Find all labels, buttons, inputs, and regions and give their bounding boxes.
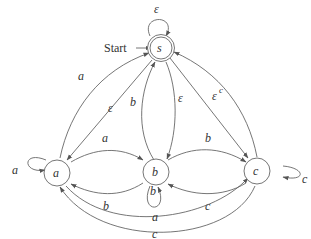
loop-c	[283, 166, 300, 178]
label-c-a: c	[152, 227, 158, 239]
edge-c-b	[168, 183, 246, 194]
state-c: c	[244, 158, 270, 184]
state-a: a	[44, 160, 70, 186]
label-s-b: ε	[178, 91, 183, 105]
label-c-b: c	[205, 199, 211, 213]
state-s: s	[148, 35, 175, 62]
label-s-c: ε	[212, 89, 217, 103]
state-s-label: s	[157, 41, 162, 55]
label-b-s: b	[130, 95, 136, 109]
state-b: b	[143, 159, 169, 185]
label-a-c: a	[152, 210, 158, 224]
edge-b-s	[142, 62, 155, 160]
edge-b-c	[168, 150, 246, 162]
start-label: Start	[104, 41, 127, 55]
label-c-c: c	[302, 172, 308, 186]
label-c-s: c	[219, 85, 223, 95]
label-s-a: ε	[108, 101, 113, 115]
edge-a-b	[71, 150, 143, 162]
state-c-label: c	[253, 164, 259, 178]
label-a-s: a	[78, 69, 84, 83]
label-a-b: a	[102, 131, 108, 145]
edge-s-b	[166, 62, 175, 159]
loop-s	[148, 20, 168, 37]
state-diagram: Start ε a b c a ε b ε ε c a b b c a c s	[0, 0, 311, 239]
state-b-label: b	[152, 165, 158, 179]
state-a-label: a	[53, 166, 59, 180]
label-a-a: a	[12, 163, 18, 177]
loop-a	[28, 158, 46, 171]
edge-b-a	[71, 183, 143, 194]
edge-c-s	[174, 52, 257, 157]
label-b-b: b	[150, 184, 156, 198]
label-s-s: ε	[154, 2, 159, 16]
label-b-c: b	[205, 131, 211, 145]
